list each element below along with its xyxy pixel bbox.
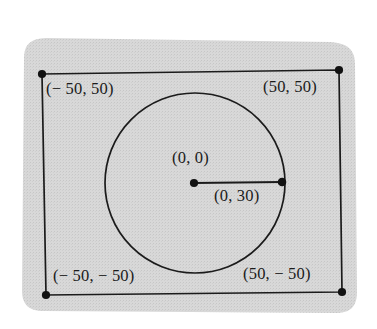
vertex-dot-top-left — [38, 70, 46, 78]
label-top-right-coordinate: (50, 50) — [263, 79, 317, 96]
label-radius-coordinate: (0, 30) — [214, 188, 259, 205]
vertex-dot-bottom-right — [338, 288, 346, 296]
label-center-coordinate: (0, 0) — [172, 150, 209, 167]
vertex-dot-top-right — [335, 66, 343, 74]
figure-container: (− 50, 50) (50, 50) (− 50, − 50) (50, − … — [0, 0, 377, 329]
label-top-left-coordinate: (− 50, 50) — [46, 81, 114, 98]
vertex-dot-bottom-left — [42, 291, 50, 299]
radius-segment — [194, 182, 282, 183]
center-dot — [190, 179, 198, 187]
label-bottom-left-coordinate: (− 50, − 50) — [53, 268, 135, 285]
label-bottom-right-coordinate: (50, − 50) — [243, 266, 311, 283]
radius-endpoint-dot — [278, 178, 287, 187]
